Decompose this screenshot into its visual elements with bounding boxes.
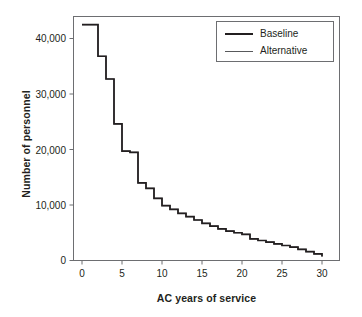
x-tick-label: 20: [227, 268, 257, 279]
x-tick-label: 15: [187, 268, 217, 279]
x-axis-title: AC years of service: [73, 292, 340, 304]
x-tick-label: 0: [67, 268, 97, 279]
legend-entry-alternative: Alternative: [217, 42, 333, 60]
x-tick-label: 10: [147, 268, 177, 279]
legend-entry-baseline: Baseline: [217, 25, 333, 43]
y-tick-marks: [70, 39, 74, 261]
legend-line-icon: [225, 33, 253, 35]
x-tick-label: 25: [267, 268, 297, 279]
x-tick-marks: [82, 261, 322, 265]
legend-label: Baseline: [260, 29, 298, 39]
chart-figure: Number of personnel 0 10,000 20,000 30,0…: [0, 0, 362, 317]
legend-line-icon: [225, 51, 253, 52]
chart-legend: Baseline Alternative: [216, 21, 334, 62]
x-tick-label: 30: [307, 268, 337, 279]
x-tick-label: 5: [107, 268, 137, 279]
legend-label: Alternative: [260, 46, 307, 56]
